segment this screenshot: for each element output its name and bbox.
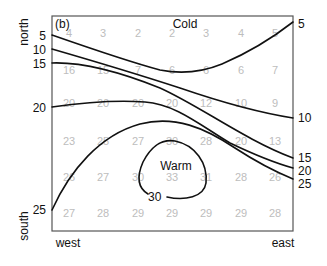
- panel-label: (b): [55, 17, 70, 31]
- grid-value: 29: [166, 207, 178, 219]
- grid-value: 30: [132, 171, 144, 183]
- west-label: west: [55, 236, 81, 250]
- grid-value: 12: [200, 97, 212, 109]
- cold-label: Cold: [173, 17, 198, 31]
- left-contour-label-25: 25: [33, 203, 47, 217]
- north-label: north: [17, 18, 31, 45]
- left-contour-label-10: 10: [33, 43, 47, 57]
- grid-value: 6: [169, 64, 175, 76]
- grid-value: 20: [97, 97, 109, 109]
- grid-value: 23: [63, 135, 75, 147]
- grid-value: 29: [200, 207, 212, 219]
- grid-value: 28: [200, 135, 212, 147]
- right-contour-label-5: 5: [298, 17, 305, 31]
- grid-value: 20: [132, 97, 144, 109]
- grid-value: 20: [63, 97, 75, 109]
- grid-value: 4: [238, 27, 244, 39]
- right-contour-label-25: 25: [298, 177, 312, 191]
- inner-contour-label-30: 30: [148, 190, 162, 204]
- grid-value: 6: [238, 64, 244, 76]
- grid-value: 29: [235, 207, 247, 219]
- grid-value: 28: [235, 171, 247, 183]
- grid-value: 7: [272, 64, 278, 76]
- right-contour-label-20: 20: [298, 164, 312, 178]
- contour-diagram: 4322345161576667202020201210923252730282…: [0, 0, 327, 266]
- grid-value: 28: [269, 207, 281, 219]
- left-contour-label-20: 20: [33, 101, 47, 115]
- right-contour-label-10: 10: [298, 111, 312, 125]
- grid-value: 27: [132, 135, 144, 147]
- grid-value: 3: [100, 27, 106, 39]
- grid-values: 4322345161576667202020201210923252730282…: [63, 27, 281, 219]
- grid-value: 9: [272, 97, 278, 109]
- grid-value: 3: [203, 27, 209, 39]
- left-contour-label-5: 5: [39, 29, 46, 43]
- grid-value: 29: [132, 207, 144, 219]
- warm-label: Warm: [160, 159, 192, 173]
- grid-value: 28: [97, 207, 109, 219]
- east-label: east: [272, 236, 295, 250]
- left-contour-label-15: 15: [33, 57, 47, 71]
- grid-value: 13: [269, 135, 281, 147]
- grid-value: 27: [97, 171, 109, 183]
- right-contour-label-15: 15: [298, 151, 312, 165]
- grid-value: 27: [63, 207, 75, 219]
- grid-value: 16: [63, 64, 75, 76]
- grid-value: 20: [235, 135, 247, 147]
- grid-value: 2: [135, 27, 141, 39]
- south-label: south: [17, 211, 31, 240]
